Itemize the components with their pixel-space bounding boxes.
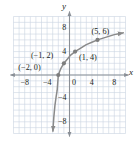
data-point — [95, 38, 99, 42]
point-label: (5, 6) — [92, 28, 110, 36]
data-point — [62, 61, 66, 65]
point-label: (1, 4) — [79, 54, 97, 62]
axis-lines — [11, 12, 129, 137]
x-axis-label: x — [129, 68, 133, 77]
point-label: (−1, 2) — [31, 52, 53, 60]
tick-y-8: 8 — [62, 24, 66, 32]
data-point — [56, 73, 60, 77]
tick-x-4: 4 — [90, 79, 94, 87]
coordinate-plane — [0, 0, 140, 146]
data-point — [73, 50, 77, 54]
tick-y-4: 4 — [62, 48, 66, 56]
tick-x--4: −4 — [43, 79, 52, 87]
tick-x-0: 0 — [72, 79, 76, 87]
graph-figure: y x −8−404884−4−8 (−2, 0)(−1, 2)(1, 4)(5… — [0, 0, 140, 146]
tick-y--8: −8 — [58, 118, 67, 126]
y-axis-label: y — [62, 2, 66, 11]
tick-y--4: −4 — [58, 94, 67, 102]
point-label: (−2, 0) — [18, 64, 40, 72]
tick-x-8: 8 — [112, 79, 116, 87]
tick-x--8: −8 — [21, 79, 30, 87]
